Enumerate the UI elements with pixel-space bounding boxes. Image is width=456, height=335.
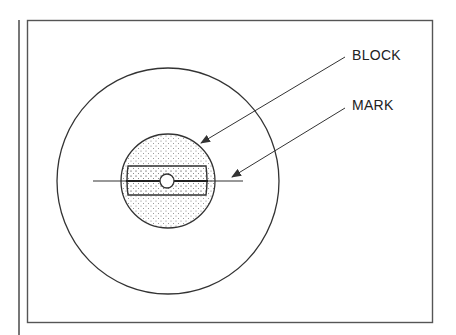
mark-label: MARK xyxy=(352,97,394,113)
block-label: BLOCK xyxy=(352,47,401,63)
figure-frame xyxy=(28,21,433,323)
block-leader-arrow xyxy=(201,57,345,143)
diagram-canvas: BLOCK MARK xyxy=(0,0,456,335)
mark-leader-arrow xyxy=(232,108,345,177)
center-hole xyxy=(160,174,174,188)
